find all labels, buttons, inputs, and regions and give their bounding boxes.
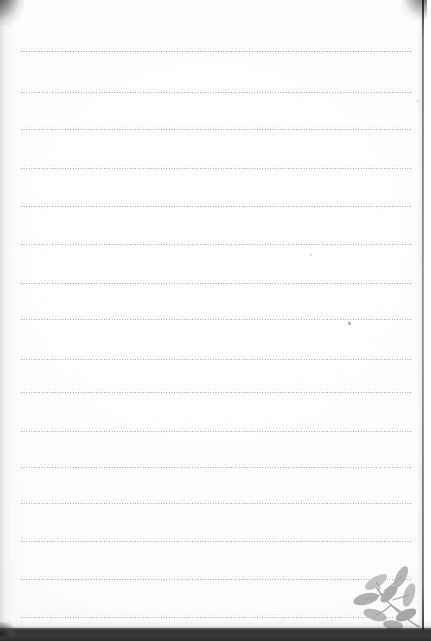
rule-line (21, 540, 411, 542)
rule-line (21, 318, 411, 320)
paper-grain-texture (0, 0, 423, 629)
notebook-page-screenshot (0, 0, 431, 641)
rule-line (21, 502, 411, 504)
rule-line (21, 243, 411, 245)
rule-line (21, 282, 411, 284)
rule-line (21, 50, 411, 52)
rule-line (21, 167, 411, 169)
rule-line (21, 91, 411, 93)
rule-line (21, 430, 411, 432)
rule-line (21, 128, 411, 130)
rule-line (21, 578, 411, 580)
paper-sheet (0, 0, 423, 629)
corner-shadow-top-left (0, 0, 24, 26)
rule-line (21, 466, 411, 468)
bottom-dark-band (0, 628, 431, 641)
ink-speck-faint (310, 254, 312, 256)
rule-line (21, 205, 411, 207)
rule-line (21, 616, 393, 618)
rule-line (21, 391, 411, 393)
rule-line (21, 358, 411, 360)
page-edge-right (422, 0, 424, 634)
bottom-left-corner-shadow (0, 622, 16, 636)
ink-speck (348, 322, 351, 325)
